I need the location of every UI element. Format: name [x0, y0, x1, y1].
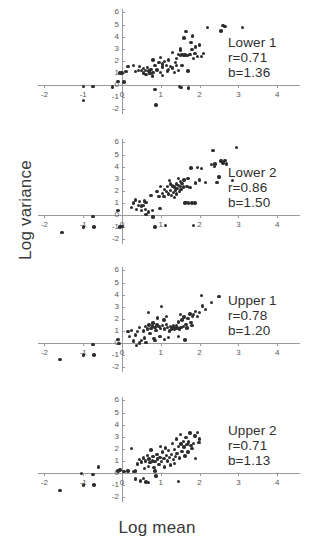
data-point — [190, 48, 193, 51]
x-tick-label: 3 — [230, 220, 246, 229]
panel-name: Lower 2 — [228, 165, 277, 180]
y-tick — [122, 343, 125, 344]
scatter-panel: -2-101234-2-10123456Upper 2r=0.71b=1.13 — [0, 388, 314, 518]
y-tick-label: 4 — [107, 420, 119, 429]
data-point — [143, 467, 146, 470]
data-point — [116, 80, 119, 83]
data-point — [142, 329, 145, 332]
data-point — [182, 315, 185, 318]
data-point — [164, 224, 167, 227]
data-point — [215, 181, 218, 184]
data-point — [136, 330, 139, 333]
data-point — [196, 431, 199, 434]
data-point — [186, 317, 189, 320]
data-point — [120, 71, 123, 74]
data-point — [173, 448, 176, 451]
slope-value: b=1.36 — [228, 65, 277, 80]
data-point — [159, 56, 162, 59]
data-point — [134, 477, 137, 480]
data-point — [190, 447, 193, 450]
x-tick — [161, 473, 162, 476]
data-point — [198, 178, 201, 181]
y-tick-label: 1 — [107, 456, 119, 465]
data-point — [91, 473, 94, 476]
y-tick — [122, 485, 125, 486]
x-tick-label: 1 — [153, 348, 169, 357]
data-point — [111, 85, 114, 88]
x-tick-label: 3 — [230, 348, 246, 357]
data-point — [167, 336, 170, 339]
y-tick — [122, 155, 125, 156]
data-point — [154, 474, 157, 477]
y-tick — [122, 97, 125, 98]
y-tick — [122, 37, 125, 38]
data-point — [191, 34, 194, 37]
data-point — [217, 175, 220, 178]
scatter-panel: -2-101234-2-10123456Lower 2r=0.86b=1.50 — [0, 129, 314, 259]
data-point — [130, 447, 133, 450]
data-point — [185, 326, 188, 329]
data-point — [126, 469, 129, 472]
y-tick — [122, 497, 125, 498]
data-point — [124, 70, 127, 73]
data-point — [173, 462, 176, 465]
x-tick — [83, 215, 84, 218]
y-tick — [122, 61, 125, 62]
data-point — [82, 99, 85, 102]
data-point — [138, 341, 141, 344]
data-point — [158, 207, 161, 210]
y-tick-label: 6 — [107, 7, 119, 16]
panel-annotation: Upper 2r=0.71b=1.13 — [228, 423, 277, 468]
x-tick-label: -2 — [36, 90, 52, 99]
y-tick — [122, 331, 125, 332]
data-point — [155, 190, 158, 193]
y-tick-label: 6 — [107, 265, 119, 274]
data-point — [167, 58, 170, 61]
x-tick — [200, 473, 201, 476]
y-tick — [122, 109, 125, 110]
data-point — [144, 73, 147, 76]
data-point — [117, 342, 120, 345]
y-tick-label: 5 — [107, 408, 119, 417]
data-point — [134, 198, 137, 201]
y-tick — [122, 473, 125, 474]
data-point — [151, 74, 154, 77]
x-tick-label: 2 — [192, 348, 208, 357]
data-point — [155, 68, 158, 71]
y-tick-label: -1 — [107, 350, 119, 359]
x-tick-label: -2 — [36, 220, 52, 229]
y-tick — [122, 142, 125, 143]
data-point — [138, 200, 141, 203]
data-point — [91, 215, 94, 218]
data-point — [223, 25, 226, 28]
scatter-panel: -2-101234-2-10123456Upper 1r=0.78b=1.20 — [0, 258, 314, 388]
data-point — [151, 58, 154, 61]
data-point — [198, 311, 201, 314]
data-point — [183, 338, 186, 341]
data-point — [116, 338, 119, 341]
data-point — [91, 343, 94, 346]
data-point — [204, 181, 207, 184]
data-point — [161, 74, 164, 77]
data-point — [178, 456, 181, 459]
data-point — [144, 69, 147, 72]
data-point — [144, 201, 147, 204]
data-point — [92, 225, 95, 228]
data-point — [193, 201, 196, 204]
y-tick — [122, 49, 125, 50]
y-tick-label: -2 — [107, 492, 119, 501]
x-tick-label: -2 — [36, 348, 52, 357]
x-tick-label: 4 — [269, 220, 285, 229]
data-point — [58, 358, 61, 361]
data-point — [140, 209, 143, 212]
x-axis-label: Log mean — [0, 518, 314, 538]
data-point — [210, 301, 213, 304]
x-tick — [238, 215, 239, 218]
correlation-value: r=0.71 — [228, 438, 277, 453]
y-tick-label: 2 — [107, 314, 119, 323]
y-tick-label: 4 — [107, 290, 119, 299]
x-tick — [44, 473, 45, 476]
data-point — [189, 166, 192, 169]
x-tick — [238, 343, 239, 346]
data-point — [132, 201, 135, 204]
